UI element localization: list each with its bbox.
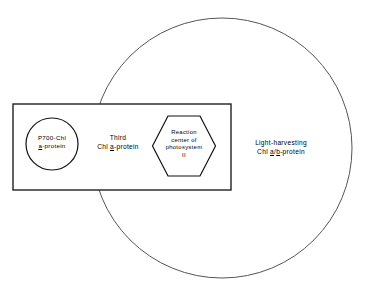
diagram-canvas: P700-Chl a-protein Third Chl a-protein R… — [0, 0, 370, 292]
label-third-line2-prefix: Chl — [97, 143, 110, 150]
label-third-line2: Chl a-protein — [80, 143, 156, 152]
label-p700-line2: a-protein — [14, 142, 90, 150]
label-rc-line3: photosystem — [152, 144, 216, 152]
label-reaction-center-photosystem-ii: Reaction center of photosystem II — [152, 129, 216, 159]
label-rc-line2: center of — [152, 137, 216, 145]
label-lh-line1: Light-harvesting — [231, 139, 331, 148]
label-third-line2-suffix: -protein — [114, 143, 139, 150]
label-lh-line2-suffix: -protein — [280, 148, 305, 155]
label-light-harvesting-chl-a-b-protein: Light-harvesting Chl a/b-protein — [231, 139, 331, 156]
label-lh-line2: Chl a/b-protein — [231, 148, 331, 157]
label-rc-line1: Reaction — [152, 129, 216, 137]
label-p700-line1: P700-Chl — [14, 134, 90, 142]
label-rc-line4-roman-numeral: II — [152, 152, 216, 160]
label-p700-line2-suffix: -protein — [42, 142, 65, 149]
label-lh-line2-prefix: Chl — [257, 148, 270, 155]
label-third-line1: Third — [80, 134, 156, 143]
label-p700-chl-a-protein: P700-Chl a-protein — [14, 134, 90, 150]
label-third-chl-a-protein: Third Chl a-protein — [80, 134, 156, 151]
